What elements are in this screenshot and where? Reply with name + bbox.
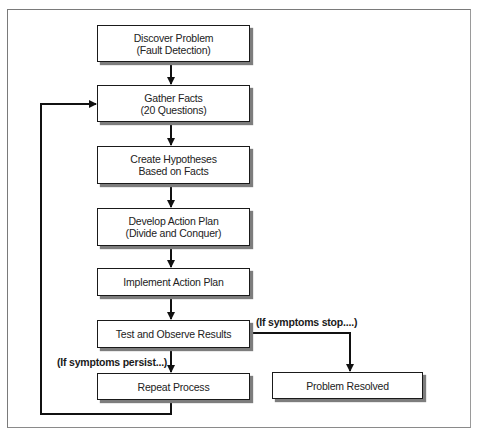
node-text: Gather Facts: [144, 92, 202, 104]
node-discover-problem: Discover Problem (Fault Detection): [97, 25, 250, 62]
node-subtext: (Divide and Conquer): [126, 227, 222, 239]
node-create-hypotheses: Create Hypotheses Based on Facts: [97, 146, 250, 184]
node-text: Create Hypotheses: [130, 153, 216, 165]
edge-label-symptoms-persist: (If symptoms persist...): [57, 356, 167, 368]
node-text: Develop Action Plan: [128, 215, 218, 227]
node-problem-resolved: Problem Resolved: [272, 372, 423, 399]
node-implement-action-plan: Implement Action Plan: [97, 268, 250, 296]
node-text: Test and Observe Results: [116, 328, 231, 340]
node-repeat-process: Repeat Process: [97, 373, 250, 400]
edge-test-resolved: [250, 333, 350, 371]
node-text: Problem Resolved: [306, 380, 389, 392]
node-subtext: (20 Questions): [140, 104, 206, 116]
node-text: Discover Problem: [134, 32, 214, 44]
node-gather-facts: Gather Facts (20 Questions): [97, 85, 250, 122]
node-text: Repeat Process: [138, 381, 210, 393]
node-text: Implement Action Plan: [123, 276, 223, 288]
edge-label-symptoms-stop: (If symptoms stop....): [256, 316, 357, 328]
node-develop-action-plan: Develop Action Plan (Divide and Conquer): [97, 208, 250, 246]
node-subtext: (Fault Detection): [136, 44, 210, 56]
node-subtext: Based on Facts: [138, 165, 208, 177]
node-test-observe: Test and Observe Results: [97, 320, 250, 348]
